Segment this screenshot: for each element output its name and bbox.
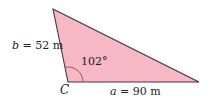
side-a-label: a = 90 m bbox=[110, 85, 161, 98]
triangle-shape bbox=[53, 9, 199, 82]
vertex-c-label: C bbox=[60, 83, 69, 97]
side-b-value: = 52 m bbox=[19, 39, 64, 52]
side-a-value: = 90 m bbox=[117, 85, 162, 98]
triangle-diagram: 102° b = 52 m C a = 90 m bbox=[0, 0, 211, 104]
angle-label: 102° bbox=[81, 55, 108, 68]
triangle-figure: 102° b = 52 m C a = 90 m bbox=[0, 0, 211, 104]
side-b-variable: b bbox=[12, 39, 19, 52]
side-b-label: b = 52 m bbox=[12, 39, 64, 52]
